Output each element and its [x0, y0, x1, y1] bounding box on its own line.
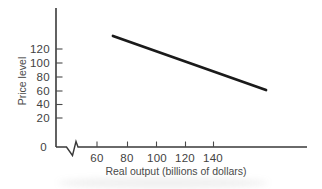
x-tick-label-140: 140	[196, 151, 230, 165]
scan-artifact-smudge	[58, 177, 268, 189]
origin-label: 0	[34, 140, 47, 154]
y-tick-marks	[56, 49, 63, 118]
demand-curve-line	[113, 36, 266, 90]
x-axis-title: Real output (billions of dollars)	[105, 165, 246, 177]
demand-curve-chart: 120 100 80 60 40 20 0 60 80 100 120 140 …	[0, 0, 322, 189]
y-tick-label-120: 120	[18, 42, 50, 56]
x-tick-marks	[97, 142, 214, 148]
y-tick-label-20: 20	[18, 111, 50, 125]
x-tick-label-80: 80	[110, 151, 144, 165]
x-tick-label-60: 60	[80, 151, 114, 165]
y-axis-title: Price level	[16, 57, 28, 105]
